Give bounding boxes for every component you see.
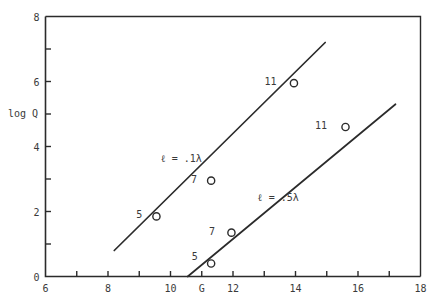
x-axis-tick-label: 16 [352, 283, 364, 294]
y-axis-title: log Q [8, 108, 38, 119]
y-axis-tick-label: 6 [24, 76, 40, 87]
x-axis-tick-label: 12 [227, 283, 239, 294]
axis-frame-top-right [46, 17, 421, 277]
data-point-label: 11 [264, 76, 276, 87]
data-point-label: 5 [136, 209, 142, 220]
x-axis-tick-label: 8 [105, 283, 111, 294]
data-point-marker[interactable] [228, 229, 235, 236]
series-annotation-1: ℓ = .5λ [258, 191, 299, 202]
y-axis-tick-label: 8 [24, 11, 40, 22]
series-line-0 [114, 43, 325, 251]
x-axis-tick-label: 18 [414, 283, 426, 294]
series-line-1 [188, 104, 396, 276]
x-axis-tick-label: 10 [164, 283, 176, 294]
plot-canvas [0, 0, 443, 303]
x-axis-tick-label: G [199, 283, 205, 294]
chart-figure: log Q 6810G12141618024685711ℓ = .1λ5711ℓ… [0, 0, 443, 303]
y-axis-tick-label: 2 [24, 206, 40, 217]
data-point-label: 5 [192, 251, 198, 262]
data-point-marker[interactable] [342, 123, 349, 130]
x-axis-tick-label: 14 [289, 283, 301, 294]
data-point-label: 11 [315, 120, 327, 131]
data-point-marker[interactable] [153, 213, 160, 220]
y-axis-tick-label: 0 [24, 271, 40, 282]
axis-frame-left-bottom [46, 17, 421, 277]
x-axis-tick-label: 6 [42, 283, 48, 294]
y-axis-tick-label: 4 [24, 141, 40, 152]
data-point-label: 7 [209, 225, 215, 236]
data-point-marker[interactable] [290, 80, 297, 87]
data-point-marker[interactable] [208, 177, 215, 184]
data-point-marker[interactable] [208, 260, 215, 267]
series-annotation-0: ℓ = .1λ [161, 152, 202, 163]
data-point-label: 7 [191, 173, 197, 184]
